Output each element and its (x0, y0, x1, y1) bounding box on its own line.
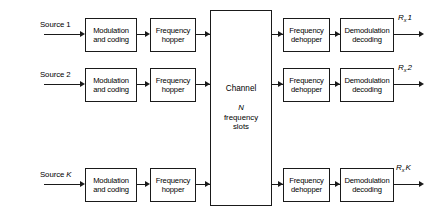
block-modulation-coding-k: Modulation and coding (85, 168, 137, 202)
block-frequency-dehopper-k: Frequency dehopper (283, 168, 330, 202)
connector-demodulationk-to-output (394, 184, 422, 185)
block-channel: Channel Nfrequency slots (210, 10, 272, 206)
block-frequency-dehopper-2: Frequency dehopper (283, 68, 330, 102)
block-modulation-coding-2: Modulation and coding (85, 68, 137, 102)
output-label-rx-2: Rx2 (398, 63, 412, 72)
connector-demodulation2-to-output (394, 84, 422, 85)
block-frequency-hopper-1: Frequency hopper (150, 18, 196, 52)
block-demodulation-decoding-1: Demodulation decoding (340, 18, 394, 52)
block-frequency-hopper-k: Frequency hopper (150, 168, 196, 202)
block-frequency-dehopper-1: Frequency dehopper (283, 18, 330, 52)
source-label-2: Source 2 (40, 70, 71, 79)
block-demodulation-decoding-2: Demodulation decoding (340, 68, 394, 102)
connector-source2-to-modulation (44, 84, 81, 85)
channel-title: Channel (226, 84, 257, 94)
connector-sourcek-to-modulation (44, 184, 81, 185)
block-demodulation-decoding-k: Demodulation decoding (340, 168, 394, 202)
output-label-rx-1: Rx1 (398, 13, 412, 22)
block-modulation-coding-1: Modulation and coding (85, 18, 137, 52)
source-label-k: Source K (40, 170, 71, 179)
channel-subtitle: Nfrequency slots (224, 103, 258, 132)
connector-source1-to-modulation (44, 34, 81, 35)
output-label-rx-k: RxK (396, 163, 411, 172)
block-diagram: Source 1 Modulation and coding Frequency… (0, 0, 433, 220)
arrowhead-output-1 (419, 31, 424, 37)
source-label-1: Source 1 (40, 20, 71, 29)
block-frequency-hopper-2: Frequency hopper (150, 68, 196, 102)
arrowhead-output-k (419, 181, 424, 187)
arrowhead-output-2 (419, 81, 424, 87)
connector-demodulation1-to-output (394, 34, 422, 35)
